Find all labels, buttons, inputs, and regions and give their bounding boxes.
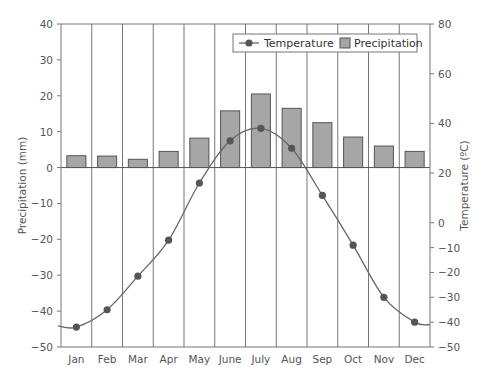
right-tick-label: 80: [438, 18, 451, 30]
precipitation-bar: [313, 123, 332, 168]
precipitation-bar: [374, 146, 393, 168]
precipitation-bar: [190, 138, 209, 167]
temperature-marker: [134, 273, 141, 280]
left-tick-label: −40: [31, 305, 53, 317]
precipitation-bar: [405, 151, 424, 167]
month-label: Nov: [374, 353, 395, 365]
month-label: Aug: [281, 353, 302, 365]
temperature-marker: [319, 192, 326, 199]
month-label: Mar: [128, 353, 148, 365]
precipitation-bar: [159, 151, 178, 167]
temperature-marker: [350, 242, 357, 249]
temperature-marker: [73, 324, 80, 331]
right-tick-label: −30: [438, 291, 460, 303]
right-tick-label: −40: [438, 316, 460, 328]
legend-temperature-label: Temperature: [263, 37, 334, 50]
month-label: June: [218, 353, 242, 365]
precipitation-bar: [128, 159, 147, 167]
right-tick-label: −10: [438, 242, 460, 254]
month-label: Jan: [67, 353, 84, 365]
right-tick-label: −20: [438, 266, 460, 278]
temperature-marker: [165, 237, 172, 244]
temperature-marker: [411, 319, 418, 326]
legend-precipitation-swatch-icon: [340, 38, 350, 48]
left-tick-label: 30: [40, 54, 53, 66]
left-tick-label: 10: [40, 126, 53, 138]
precipitation-bar: [344, 137, 363, 168]
left-axis-title: Precipitation (mm): [16, 137, 28, 235]
precipitation-bar: [282, 108, 301, 167]
right-tick-label: 20: [438, 167, 451, 179]
month-label: Dec: [404, 353, 425, 365]
temperature-marker: [380, 294, 387, 301]
month-label: Apr: [160, 353, 179, 365]
month-label: May: [189, 353, 211, 365]
right-tick-label: −50: [438, 341, 460, 353]
left-tick-label: 0: [46, 162, 53, 174]
left-tick-label: −50: [31, 341, 53, 353]
temperature-marker: [257, 125, 264, 132]
month-label: Feb: [98, 353, 117, 365]
legend-temperature-marker-icon: [245, 39, 252, 46]
right-axis-title: Temperature (ºC): [458, 140, 470, 231]
left-tick-label: −20: [31, 233, 53, 245]
month-label: Sep: [312, 353, 332, 365]
precipitation-bar: [98, 156, 117, 167]
precipitation-bar: [67, 156, 86, 168]
left-tick-label: 20: [40, 90, 53, 102]
right-tick-label: 40: [438, 117, 451, 129]
temperature-marker: [104, 306, 111, 313]
right-tick-label: 0: [438, 217, 445, 229]
right-tick-label: 60: [438, 68, 451, 80]
left-tick-label: −30: [31, 269, 53, 281]
climate-chart: 403020100−10−20−30−40−50806040200−10−20−…: [0, 0, 487, 377]
legend-precipitation-label: Precipitation: [354, 37, 423, 50]
month-label: Oct: [344, 353, 362, 365]
temperature-marker: [227, 137, 234, 144]
left-tick-label: 40: [40, 18, 53, 30]
temperature-marker: [196, 179, 203, 186]
left-tick-label: −10: [31, 197, 53, 209]
month-label: July: [250, 353, 270, 365]
temperature-marker: [288, 145, 295, 152]
